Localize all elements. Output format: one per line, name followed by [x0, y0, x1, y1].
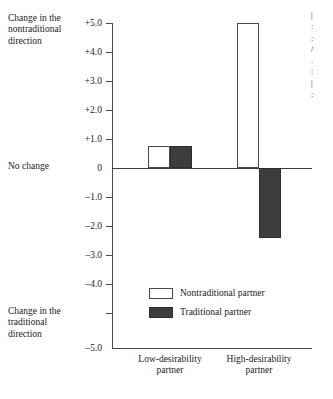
y-tick-label: 0 [66, 163, 102, 173]
page-margin-text-sliver: |::/.:|: [311, 10, 333, 106]
y-tick [106, 226, 112, 227]
bar-chart-figure: Change in the nontraditional direction N… [0, 0, 333, 399]
legend-item-traditional: Traditional partner [149, 305, 265, 320]
y-tick-label: –5.0 [66, 343, 102, 353]
y-tick [106, 284, 112, 285]
y-tick [106, 52, 112, 53]
bar-low-traditional [170, 146, 192, 168]
y-tick-label: –1.0 [66, 192, 102, 202]
legend-label: Nontraditional partner [180, 288, 265, 299]
legend-label: Traditional partner [180, 307, 251, 318]
annotation-traditional-direction: Change in the traditional direction [8, 306, 94, 340]
y-tick [106, 313, 112, 314]
bar-low-nontraditional [148, 146, 170, 168]
y-tick [106, 255, 112, 256]
x-category-label-low: Low-desirability partner [122, 354, 218, 377]
y-tick-label: –3.0 [66, 250, 102, 260]
legend-item-nontraditional: Nontraditional partner [149, 286, 265, 301]
bar-high-traditional [259, 168, 281, 238]
zero-baseline [112, 168, 312, 169]
category-line: Low-desirability [122, 354, 218, 365]
y-tick [106, 81, 112, 82]
annotation-line: direction [8, 36, 94, 47]
legend-swatch-icon [149, 288, 173, 299]
category-line: High-desirability [211, 354, 307, 365]
y-tick-label: +2.0 [66, 105, 102, 115]
y-tick [106, 110, 112, 111]
y-tick [106, 139, 112, 140]
y-tick-label: +1.0 [66, 134, 102, 144]
x-category-label-high: High-desirability partner [211, 354, 307, 377]
y-tick-label: –4.0 [66, 279, 102, 289]
annotation-line: traditional [8, 317, 94, 328]
annotation-line: direction [8, 329, 94, 340]
legend-swatch-icon [149, 307, 173, 318]
y-tick-label: +3.0 [66, 76, 102, 86]
annotation-line: Change in the [8, 306, 94, 317]
legend: Nontraditional partner Traditional partn… [149, 286, 265, 324]
bar-high-nontraditional [237, 23, 259, 168]
y-tick [106, 23, 112, 24]
category-line: partner [122, 365, 218, 376]
y-tick-label: +4.0 [66, 47, 102, 57]
y-tick [106, 197, 112, 198]
y-tick-label: –2.0 [66, 221, 102, 231]
x-axis-line [112, 348, 312, 349]
category-line: partner [211, 365, 307, 376]
y-axis-line [112, 23, 113, 349]
y-tick-label: +5.0 [66, 18, 102, 28]
